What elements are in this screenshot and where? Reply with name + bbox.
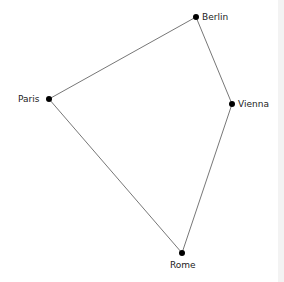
edge-berlin-vienna bbox=[196, 17, 232, 104]
labels: Berlin Paris Vienna Rome bbox=[18, 12, 269, 270]
label-paris: Paris bbox=[18, 94, 40, 104]
city-graph: Berlin Paris Vienna Rome bbox=[0, 0, 284, 282]
node-berlin[interactable] bbox=[193, 14, 199, 20]
edge-paris-berlin bbox=[49, 17, 196, 99]
nodes bbox=[46, 14, 235, 256]
node-rome[interactable] bbox=[179, 250, 185, 256]
edge-rome-paris bbox=[49, 99, 182, 253]
node-vienna[interactable] bbox=[229, 101, 235, 107]
label-vienna: Vienna bbox=[238, 99, 269, 109]
edge-vienna-rome bbox=[182, 104, 232, 253]
edges bbox=[49, 17, 232, 253]
label-rome: Rome bbox=[170, 260, 196, 270]
label-berlin: Berlin bbox=[202, 12, 228, 22]
node-paris[interactable] bbox=[46, 96, 52, 102]
